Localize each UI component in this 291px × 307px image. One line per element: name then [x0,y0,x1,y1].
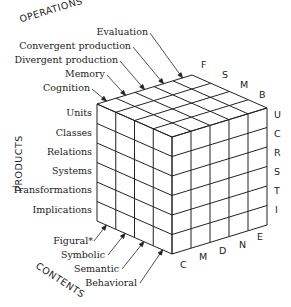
product-label-systems: Systems [52,165,92,176]
product-label-relations: Relations [47,146,92,157]
content-label-behavioral: Behavioral [85,277,137,288]
structure-of-intellect-diagram: OPERATIONS PRODUCTS CONTENTS Evaluation … [0,0,291,307]
top-code-s: S [222,69,228,80]
product-label-classes: Classes [56,127,92,138]
right-code-u: U [274,109,281,120]
operation-label-evaluation: Evaluation [97,26,148,37]
bottom-code-d: D [219,245,226,256]
product-label-units: Units [66,107,92,118]
operation-label-convergent-production: Convergent production [19,40,131,51]
right-code-s: S [274,166,280,177]
top-code-b: B [259,89,266,100]
bottom-code-n: N [239,239,246,250]
bottom-code-c: C [180,259,187,270]
operation-label-memory: Memory [65,68,105,79]
product-label-transformations: Transformations [12,184,92,195]
operation-label-cognition: Cognition [43,82,90,93]
content-label-figural: Figural* [53,235,93,246]
top-code-f: F [201,59,206,70]
right-code-t: T [274,185,280,196]
operation-label-divergent-production: Divergent production [15,54,118,65]
right-code-i: I [275,204,278,215]
product-label-implications: Implications [33,204,92,215]
bottom-code-m: M [199,251,207,262]
right-code-c: C [274,128,281,139]
bottom-code-e: E [257,231,263,242]
top-code-m: M [240,79,248,90]
content-label-symbolic: Symbolic [61,249,105,260]
content-label-semantic: Semantic [74,263,119,274]
right-code-r: R [274,147,281,158]
